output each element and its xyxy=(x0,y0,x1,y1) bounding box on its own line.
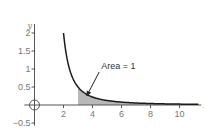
x-tick-label: 8 xyxy=(148,109,153,119)
chart: xy246810−0.50.511.52 Area = 1 xyxy=(0,0,204,140)
shaded-area xyxy=(78,87,198,105)
y-tick-label: 0.5 xyxy=(18,82,31,92)
y-tick-label: 1.5 xyxy=(18,46,31,56)
x-tick-label: 2 xyxy=(61,109,66,119)
y-tick-label: 1 xyxy=(25,64,30,74)
x-tick-label: 6 xyxy=(119,109,124,119)
y-tick-label: 2 xyxy=(25,28,30,38)
x-tick-label: 4 xyxy=(90,109,95,119)
x-tick-label: 10 xyxy=(174,109,184,119)
y-tick-label: −0.5 xyxy=(13,118,31,128)
annotation-label: Area = 1 xyxy=(101,61,135,71)
x-axis-label: x xyxy=(203,101,204,110)
